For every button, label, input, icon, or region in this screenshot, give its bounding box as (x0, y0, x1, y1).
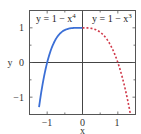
x-tick-label-neg1: −1 (42, 117, 53, 128)
curve-1-minus-x4 (39, 28, 82, 107)
y-tick-label-0: 0 (19, 57, 24, 68)
y-tick-label-neg1: −1 (13, 92, 24, 103)
x-axis-label: x (80, 125, 85, 134)
annotation-right: y = 1 − x3 (92, 12, 132, 24)
annotation-left: y = 1 − x4 (36, 12, 76, 24)
x-tick-label-1: 1 (115, 117, 120, 128)
y-tick-label-1: 1 (19, 22, 24, 33)
curve-1-minus-x3 (83, 28, 131, 113)
y-axis-label: y (8, 57, 13, 68)
function-plot: y = 1 − x4 y = 1 − x3 1 0 −1 −1 0 1 y x (0, 0, 141, 134)
